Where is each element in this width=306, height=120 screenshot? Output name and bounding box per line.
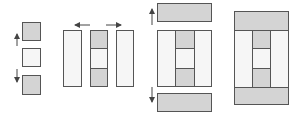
arrows-layer — [0, 0, 306, 120]
